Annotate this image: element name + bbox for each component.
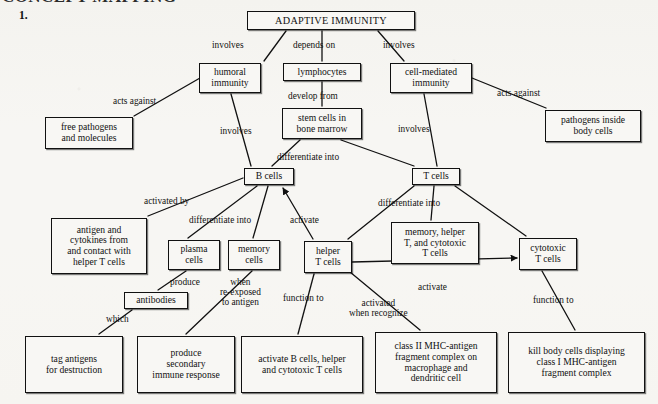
- node-antigen-cytokines[interactable]: antigen andcytokines fromand contact wit…: [51, 218, 147, 274]
- node-label: kill body cells displayingclass I MHC-an…: [528, 346, 625, 378]
- node-label: stem cells inbone marrow: [297, 113, 348, 134]
- node-label: tag antigensfor destruction: [46, 354, 102, 375]
- link-label-l-activated-by: activated by: [144, 196, 189, 206]
- edge-helper-t-cells-to-activate-b-cells: [298, 274, 314, 334]
- node-helper-t-cells[interactable]: helperT cells: [304, 241, 352, 273]
- link-label-l-involves-cellmediated: involves: [383, 40, 415, 50]
- edge-b-cells-to-plasma-cells: [188, 186, 257, 238]
- node-adaptive-immunity[interactable]: ADAPTIVE IMMUNITY: [247, 11, 415, 30]
- node-produce-secondary[interactable]: producesecondaryimmune response: [137, 336, 235, 393]
- item-number: 1.: [19, 9, 28, 21]
- link-label-l-activated-when: activatedwhen recognize: [349, 298, 408, 318]
- node-antibodies[interactable]: antibodies: [124, 292, 188, 309]
- link-label-l-which: which: [106, 314, 129, 324]
- cut-off-header: CONCEPT MAPPING: [0, 0, 310, 7]
- node-label: plasmacells: [180, 244, 207, 265]
- node-cell-mediated-immunity[interactable]: cell-mediatedimmunity: [390, 63, 472, 93]
- node-class-ii-mhc[interactable]: class II MHC-antigenfragment complex onm…: [375, 332, 497, 393]
- node-kill-body-cells[interactable]: kill body cells displayingclass I MHC-an…: [508, 332, 645, 393]
- link-label-l-involves-tcells: involves: [398, 124, 430, 134]
- node-stem-cells[interactable]: stem cells inbone marrow: [282, 108, 362, 139]
- node-lymphocytes[interactable]: lymphocytes: [283, 63, 361, 81]
- node-label: producesecondaryimmune response: [152, 348, 219, 380]
- edge-adaptive-immunity-to-humoral-immunity: [264, 31, 286, 61]
- link-label-l-acts-against-left: acts against: [113, 96, 156, 106]
- link-label-l-produce: produce: [170, 277, 200, 287]
- node-memory-helper-cytotoxic[interactable]: memory, helperT, and cytotoxicT cells: [391, 222, 479, 264]
- node-label: cell-mediatedimmunity: [405, 67, 457, 88]
- node-label: antibodies: [136, 295, 175, 306]
- cut-off-header-text: CONCEPT MAPPING: [2, 0, 176, 7]
- node-free-pathogens[interactable]: free pathogensand molecules: [45, 117, 133, 149]
- node-label: cytotoxicT cells: [530, 243, 566, 264]
- node-activate-b-cells[interactable]: activate B cells, helperand cytotoxic T …: [241, 336, 363, 393]
- node-tag-antigens[interactable]: tag antigensfor destruction: [25, 336, 123, 393]
- node-cytotoxic-t-cells[interactable]: cytotoxicT cells: [519, 238, 577, 270]
- node-label: helperT cells: [315, 246, 341, 267]
- node-label: lymphocytes: [297, 67, 346, 78]
- link-label-l-involves-bcells: involves: [220, 126, 252, 136]
- link-label-l-involves-humoral: involves: [212, 40, 244, 50]
- node-pathogens-inside[interactable]: pathogens insidebody cells: [545, 110, 641, 142]
- link-label-l-differentiate-tcells: differentiate into: [378, 198, 440, 208]
- node-label: pathogens insidebody cells: [561, 115, 625, 136]
- edge-stem-cells-to-t-cells: [341, 140, 414, 166]
- node-label: B cells: [256, 171, 282, 182]
- node-label: activate B cells, helperand cytotoxic T …: [258, 354, 345, 375]
- node-label: memory, helperT, and cytotoxicT cells: [404, 227, 466, 259]
- node-b-cells[interactable]: B cells: [244, 168, 294, 185]
- link-label-l-activate-cytotoxic: activate: [418, 282, 447, 292]
- link-label-l-depends-on: depends on: [293, 40, 335, 50]
- node-memory-cells[interactable]: memorycells: [228, 240, 280, 270]
- node-label: antigen andcytokines fromand contact wit…: [67, 225, 130, 268]
- link-label-l-function-to-cyto: function to: [533, 295, 574, 305]
- link-label-l-acts-against-right: acts against: [497, 88, 540, 98]
- edge-b-cells-to-memory-cells: [253, 186, 268, 238]
- concept-map-page: CONCEPT MAPPING 1. ADAPTIVE IMMUNITYhumo…: [0, 0, 658, 404]
- node-label: free pathogensand molecules: [61, 122, 117, 143]
- link-label-l-when-reexposed: whenre-exposedto antigen: [220, 277, 261, 307]
- node-humoral-immunity[interactable]: humoralimmunity: [199, 63, 261, 93]
- link-label-l-function-to-helper: function to: [283, 293, 324, 303]
- node-label: T cells: [423, 171, 449, 182]
- node-label: class II MHC-antigenfragment complex onm…: [394, 341, 477, 384]
- link-label-l-differentiate-bcells: differentiate into: [277, 152, 339, 162]
- node-t-cells[interactable]: T cells: [412, 168, 460, 185]
- edge-helper-t-cells-to-b-cells: [283, 188, 313, 239]
- link-label-l-activate-bcells: activate: [290, 215, 319, 225]
- node-label: ADAPTIVE IMMUNITY: [275, 15, 387, 26]
- link-label-l-differentiate-into-2: differentiate into: [189, 215, 251, 225]
- link-label-l-develop-from: develop from: [288, 91, 338, 101]
- node-label: humoralimmunity: [211, 67, 248, 88]
- node-label: memorycells: [238, 244, 270, 265]
- node-plasma-cells[interactable]: plasmacells: [168, 240, 220, 270]
